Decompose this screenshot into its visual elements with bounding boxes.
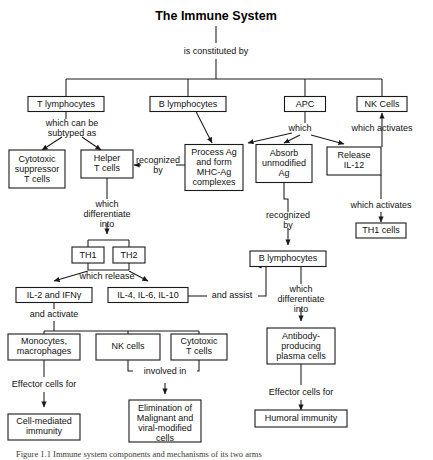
svg-text:Process Ag: Process Ag [191, 147, 237, 157]
node-antibody-producing-plasma-cells[interactable]: Antibody- producing plasma cells [267, 328, 335, 364]
svg-text:TH1: TH1 [79, 250, 96, 260]
edge-label-recognized-by-b: recognized by [266, 210, 310, 230]
svg-text:recognized: recognized [266, 210, 310, 220]
node-release-il12[interactable]: Release IL-12 [327, 147, 381, 175]
svg-text:Malignant and: Malignant and [137, 413, 194, 423]
svg-text:which: which [288, 284, 312, 294]
svg-text:TH2: TH2 [120, 250, 137, 260]
edge-label-recognized-by-helper: recognized by [136, 155, 180, 175]
svg-text:which can be: which can be [45, 118, 99, 128]
node-absorb-unmodified-ag[interactable]: Absorb unmodified Ag [256, 145, 312, 183]
svg-text:suppressor: suppressor [15, 164, 60, 174]
svg-text:IL-2 and IFNγ: IL-2 and IFNγ [27, 290, 82, 300]
svg-text:Antibody-: Antibody- [282, 331, 320, 341]
node-il2-ifn-gamma[interactable]: IL-2 and IFNγ [16, 288, 92, 303]
svg-text:Monocytes,: Monocytes, [21, 336, 67, 346]
svg-text:MHC-Ag: MHC-Ag [197, 167, 232, 177]
node-layer: T lymphocytes B lymphocytes APC NK Cells… [8, 97, 407, 444]
edge-label-which-activates-nk: which activates [350, 123, 413, 133]
svg-text:viral-modified: viral-modified [138, 423, 192, 433]
svg-text:Release: Release [337, 150, 370, 160]
figure-title: The Immune System [155, 9, 277, 23]
svg-text:Absorb: Absorb [270, 148, 299, 158]
edge-label-which-activates-th1: which activates [349, 200, 412, 210]
svg-text:APC: APC [296, 99, 315, 109]
svg-text:NK Cells: NK Cells [364, 99, 400, 109]
node-process-ag-mhc-complexes[interactable]: Process Ag and form MHC-Ag complexes [185, 145, 243, 191]
node-il4-il6-il10[interactable]: IL-4, IL-6, IL-10 [108, 288, 188, 303]
edge-label-and-assist: and assist [212, 290, 253, 300]
svg-text:Helper: Helper [94, 153, 121, 163]
svg-text:differentiate: differentiate [84, 209, 131, 219]
node-th2[interactable]: TH2 [113, 247, 145, 263]
node-helper-t-cells[interactable]: Helper T cells [81, 150, 133, 178]
edge-label-which-differentiate-into-th: which differentiate into [84, 199, 131, 229]
svg-text:unmodified: unmodified [262, 158, 306, 168]
svg-text:Cytotoxic: Cytotoxic [18, 154, 56, 164]
svg-text:Cytotoxic: Cytotoxic [180, 336, 218, 346]
svg-text:complexes: complexes [192, 177, 236, 187]
svg-text:T lymphocytes: T lymphocytes [37, 99, 95, 109]
node-monocytes-macrophages[interactable]: Monocytes, macrophages [8, 334, 80, 360]
node-b-lymphocytes-top[interactable]: B lymphocytes [150, 97, 226, 112]
svg-text:IL-4, IL-6, IL-10: IL-4, IL-6, IL-10 [117, 290, 179, 300]
node-th1-cells-right[interactable]: TH1 cells [356, 223, 406, 238]
edge-label-involved-in: involved in [144, 366, 187, 376]
node-humoral-immunity[interactable]: Humoral immunity [255, 410, 347, 427]
svg-text:plasma cells: plasma cells [276, 351, 326, 361]
svg-text:immunity: immunity [26, 426, 63, 436]
svg-text:by: by [283, 220, 293, 230]
svg-text:into: into [100, 219, 115, 229]
svg-text:producing: producing [281, 341, 321, 351]
svg-text:IL-12: IL-12 [344, 160, 365, 170]
edge-label-which-differentiate-into-b: which differentiate into [278, 284, 325, 314]
edge-label-and-activate: and activate [30, 309, 79, 319]
svg-text:into: into [294, 304, 309, 314]
node-nk-cells-top[interactable]: NK Cells [357, 97, 407, 112]
svg-text:recognized: recognized [136, 155, 180, 165]
node-apc[interactable]: APC [285, 97, 326, 112]
edge-label-is-constituted-by: is constituted by [184, 46, 249, 56]
svg-text:subtyped as: subtyped as [48, 128, 97, 138]
svg-text:cells: cells [156, 433, 175, 443]
svg-text:Cell-mediated: Cell-mediated [16, 416, 72, 426]
svg-text:macrophages: macrophages [17, 346, 72, 356]
node-b-lymphocytes-lower[interactable]: B lymphocytes [250, 251, 326, 267]
node-cytotoxic-t-cells-lower[interactable]: Cytotoxic T cells [171, 334, 227, 360]
figure-caption: Figure 1.1 Immune system components and … [16, 449, 423, 460]
svg-text:Ag: Ag [278, 168, 289, 178]
svg-text:Elimination of: Elimination of [138, 403, 193, 413]
svg-text:T cells: T cells [186, 346, 212, 356]
svg-text:T cells: T cells [94, 163, 120, 173]
edge-label-effector-cells-for-humoral: Effector cells for [269, 387, 333, 397]
svg-text:by: by [153, 165, 163, 175]
svg-text:differentiate: differentiate [278, 294, 325, 304]
svg-text:which: which [94, 199, 118, 209]
svg-text:B lymphocytes: B lymphocytes [159, 99, 218, 109]
svg-text:B lymphocytes: B lymphocytes [259, 253, 318, 263]
svg-text:NK cells: NK cells [111, 341, 145, 351]
svg-text:T cells: T cells [24, 174, 50, 184]
node-cytotoxic-suppressor-t-cells[interactable]: Cytotoxic suppressor T cells [9, 150, 65, 188]
node-elimination-malignant-viral-cells[interactable]: Elimination of Malignant and viral-modif… [129, 400, 201, 443]
svg-text:and form: and form [196, 157, 232, 167]
node-nk-cells-lower[interactable]: NK cells [96, 334, 160, 360]
svg-text:Humoral immunity: Humoral immunity [265, 413, 338, 423]
edge-label-effector-cells-for-cellmediated: Effector cells for [12, 379, 76, 389]
edge-label-which-can-be-subtyped-as: which can be subtyped as [45, 118, 99, 138]
node-t-lymphocytes[interactable]: T lymphocytes [28, 97, 104, 112]
edge-label-which-release: which release [78, 271, 134, 281]
edge-label-which: which [287, 123, 311, 133]
svg-text:TH1 cells: TH1 cells [362, 225, 400, 235]
node-th1[interactable]: TH1 [72, 247, 104, 263]
node-cell-mediated-immunity[interactable]: Cell-mediated immunity [8, 414, 80, 440]
